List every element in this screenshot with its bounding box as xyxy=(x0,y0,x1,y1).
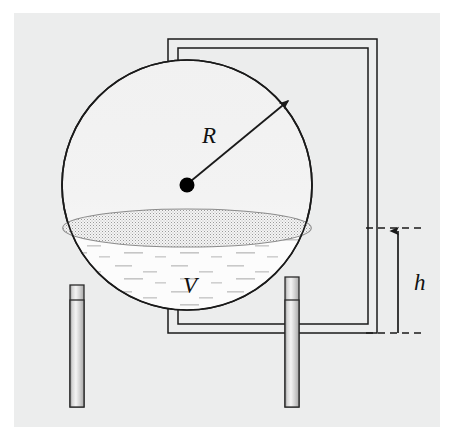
spherical-tank-diagram: R V h xyxy=(0,0,459,447)
sphere-center-dot xyxy=(180,178,195,193)
figure-root: R V h xyxy=(0,0,459,447)
leg-left-front xyxy=(70,300,84,407)
liquid-surface-ellipse xyxy=(63,209,312,247)
height-label: h xyxy=(414,270,426,295)
leg-right-front xyxy=(285,300,299,407)
radius-label: R xyxy=(201,123,216,148)
